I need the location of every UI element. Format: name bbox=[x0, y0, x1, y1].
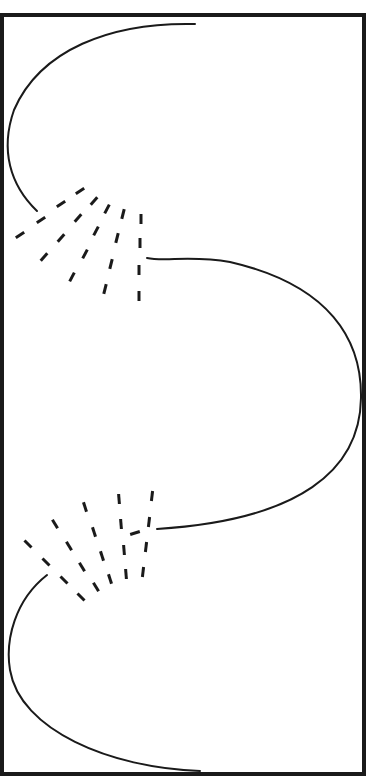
dash-mark bbox=[148, 517, 149, 527]
dash-mark bbox=[61, 577, 68, 584]
dash-mark bbox=[52, 520, 57, 528]
dash-mark bbox=[41, 253, 48, 260]
dash-mark bbox=[116, 233, 118, 243]
dash-mark bbox=[124, 545, 125, 555]
dash-mark bbox=[122, 209, 124, 219]
dash-mark bbox=[58, 234, 65, 241]
dash-mark bbox=[84, 502, 87, 512]
dash-mark bbox=[93, 583, 98, 591]
dash-mark bbox=[66, 542, 71, 550]
middle-curve bbox=[147, 258, 361, 529]
dash-mark bbox=[142, 567, 143, 577]
dash-mark bbox=[151, 491, 152, 501]
dash-mark bbox=[130, 532, 140, 535]
upper-fan bbox=[16, 188, 141, 301]
dash-mark bbox=[76, 188, 84, 193]
top-curve bbox=[8, 24, 195, 211]
dash-mark bbox=[145, 542, 146, 552]
dash-mark bbox=[104, 284, 106, 294]
dash-fans-group bbox=[16, 188, 153, 600]
dash-mark bbox=[75, 214, 82, 221]
curves-group bbox=[8, 24, 361, 771]
dash-mark bbox=[78, 594, 85, 601]
dash-mark bbox=[57, 201, 65, 206]
dash-mark bbox=[70, 273, 75, 282]
dash-mark bbox=[119, 494, 120, 504]
dash-mark bbox=[93, 527, 96, 537]
serpentine-diagram bbox=[0, 0, 368, 776]
dash-mark bbox=[83, 250, 88, 259]
dash-mark bbox=[101, 551, 104, 561]
dash-mark bbox=[91, 197, 98, 204]
lower-fan bbox=[25, 491, 153, 601]
dash-mark bbox=[94, 227, 99, 236]
dash-mark bbox=[16, 232, 24, 237]
dash-mark bbox=[110, 259, 112, 269]
dash-mark bbox=[126, 569, 127, 579]
frame-border bbox=[2, 15, 364, 774]
dash-mark bbox=[79, 563, 84, 571]
dash-mark bbox=[43, 559, 50, 566]
bottom-curve bbox=[9, 575, 200, 771]
dash-mark bbox=[37, 217, 45, 222]
dash-mark bbox=[109, 574, 112, 584]
dash-mark bbox=[25, 541, 32, 548]
dash-mark bbox=[105, 205, 110, 214]
dash-mark bbox=[121, 519, 122, 529]
